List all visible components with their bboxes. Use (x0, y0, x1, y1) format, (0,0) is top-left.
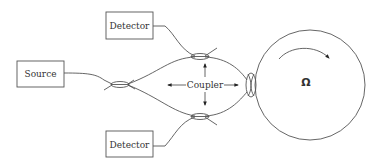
coupler-top (191, 54, 209, 60)
coupler-annotation: Coupler (168, 64, 238, 105)
gyroscope-diagram: Source Detector Detector (0, 0, 375, 168)
detector-bottom-box: Detector (106, 131, 153, 157)
detector-bottom-label: Detector (110, 140, 151, 150)
coupler-label: Coupler (187, 80, 224, 90)
source-box: Source (17, 61, 64, 87)
omega-label: Ω (301, 76, 311, 89)
detector-top-box: Detector (106, 12, 153, 39)
detector-top-label: Detector (110, 21, 151, 31)
coupler-bottom (191, 114, 209, 120)
coupler-left (111, 82, 129, 88)
source-label: Source (24, 69, 56, 79)
rotation-arrow-icon (279, 48, 329, 59)
coupler-coil (246, 73, 256, 97)
fiber-coil: Ω (255, 30, 365, 140)
